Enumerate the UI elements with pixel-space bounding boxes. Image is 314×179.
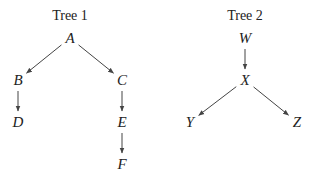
node-c: C [117, 72, 127, 89]
node-w: W [239, 30, 252, 47]
node-f: F [117, 156, 126, 173]
node-z: Z [293, 114, 301, 131]
node-y: Y [186, 114, 194, 131]
node-x: X [240, 72, 249, 89]
tree-title: Tree 2 [227, 8, 263, 24]
node-d: D [13, 114, 24, 131]
tree-diagram: Tree 1ABCDEFTree 2WXYZ [0, 0, 314, 179]
edges-layer [0, 0, 314, 179]
node-a: A [65, 30, 74, 47]
node-e: E [117, 114, 126, 131]
node-b: B [13, 72, 22, 89]
edge-arrow-a-c [79, 45, 114, 73]
edge-arrow-a-b [27, 45, 62, 73]
edge-arrow-x-z [254, 87, 289, 115]
edge-arrow-x-y [199, 87, 237, 116]
tree-title: Tree 1 [52, 8, 88, 24]
